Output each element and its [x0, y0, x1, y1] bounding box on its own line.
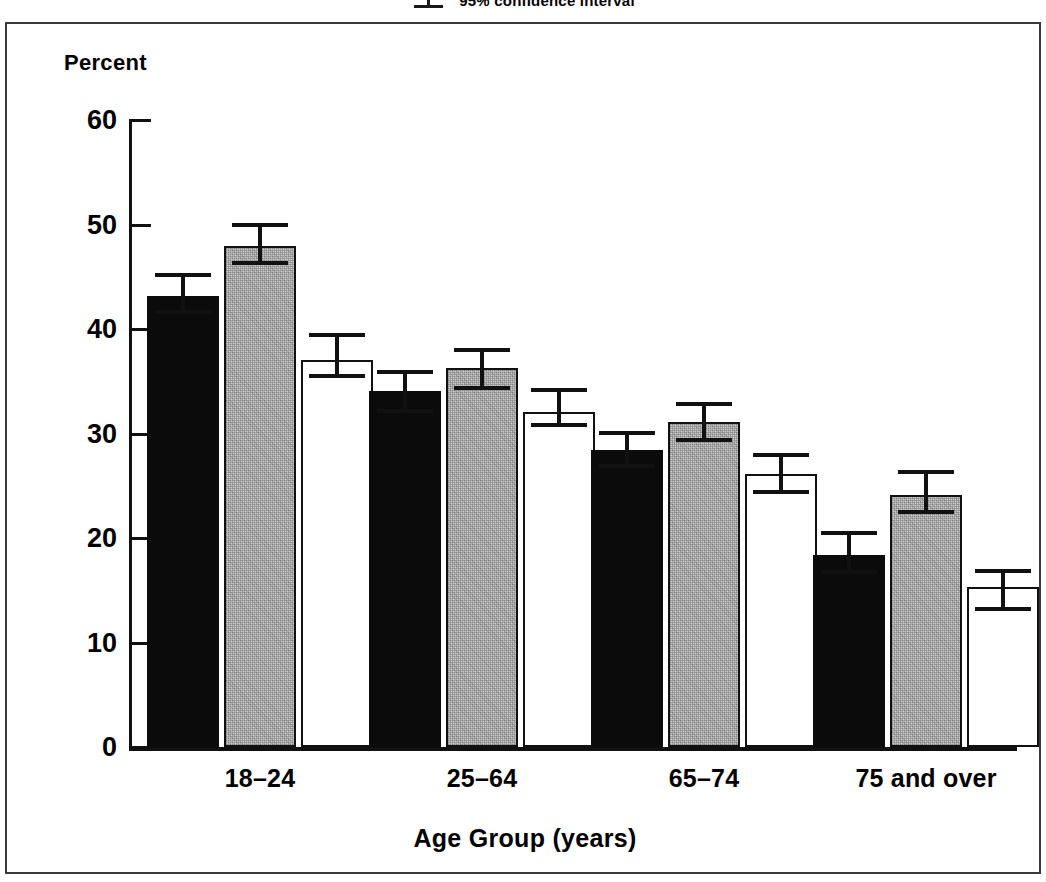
bar[interactable]: [591, 450, 663, 747]
bar-wrapper: [745, 147, 817, 747]
plot-area: 0102030405060 18–2425–6465–7475 and over…: [7, 24, 1043, 876]
x-axis-separator-tick: [129, 724, 132, 748]
x-axis-tick-label: 75 and over: [855, 764, 996, 793]
x-axis-tick-label: 25–64: [447, 764, 518, 793]
bar-group: [813, 147, 1039, 747]
y-axis-tick-label: 30: [57, 418, 117, 449]
bar-group: [591, 147, 817, 747]
bar-group: [369, 147, 595, 747]
y-axis-tick-label: 0: [57, 732, 117, 763]
bar-group: [147, 147, 373, 747]
bar-wrapper: [301, 147, 373, 747]
bar[interactable]: [813, 555, 885, 747]
bar-wrapper: [224, 147, 296, 747]
bar[interactable]: [745, 474, 817, 747]
y-axis-tick-label: 50: [57, 209, 117, 240]
x-axis-title: Age Group (years): [7, 824, 1043, 853]
legend: 95% confidence interval: [0, 0, 1046, 13]
bar-wrapper: [446, 147, 518, 747]
y-axis-tick-label: 40: [57, 314, 117, 345]
bar[interactable]: [224, 246, 296, 747]
bar[interactable]: [668, 422, 740, 747]
bar[interactable]: [369, 391, 441, 747]
bar-wrapper: [523, 147, 595, 747]
bar[interactable]: [446, 368, 518, 747]
error-bar-icon: [411, 0, 445, 11]
y-axis-tick: [129, 119, 151, 122]
bar-wrapper: [967, 147, 1039, 747]
bar-wrapper: [813, 147, 885, 747]
legend-label: 95% confidence interval: [459, 0, 635, 9]
bar[interactable]: [523, 412, 595, 747]
x-axis-tick-label: 18–24: [225, 764, 296, 793]
y-axis-tick-label: 10: [57, 627, 117, 658]
bar-wrapper: [668, 147, 740, 747]
bar[interactable]: [967, 587, 1039, 747]
bar[interactable]: [147, 296, 219, 747]
bar-wrapper: [369, 147, 441, 747]
x-axis-tick-label: 65–74: [669, 764, 740, 793]
bar-wrapper: [890, 147, 962, 747]
chart-frame: Percent 0102030405060 18–2425–6465–7475 …: [5, 22, 1041, 874]
bar-wrapper: [591, 147, 663, 747]
bar-wrapper: [147, 147, 219, 747]
bar[interactable]: [301, 360, 373, 747]
y-axis-tick-label: 60: [57, 105, 117, 136]
bar[interactable]: [890, 495, 962, 747]
y-axis-tick-label: 20: [57, 523, 117, 554]
